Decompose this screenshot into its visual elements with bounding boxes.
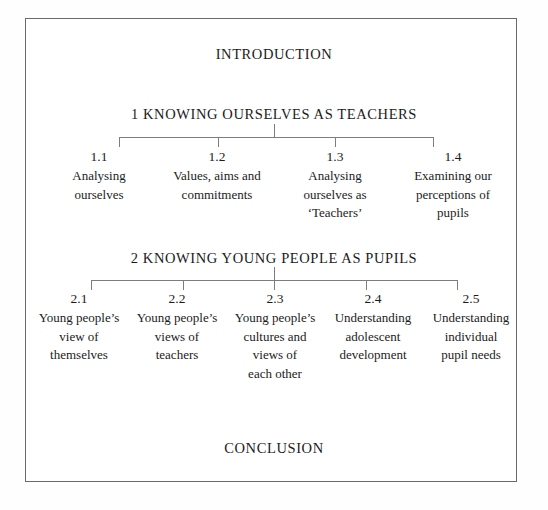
node-2-2-label: Young people’s views of teachers bbox=[131, 309, 223, 365]
section-1-heading: 1 KNOWING OURSELVES AS TEACHERS bbox=[0, 106, 548, 123]
node-1-1-number: 1.1 bbox=[43, 148, 155, 165]
node-2-1-number: 2.1 bbox=[33, 290, 125, 307]
conclusion-heading: CONCLUSION bbox=[0, 440, 548, 457]
node-1-2-number: 1.2 bbox=[161, 148, 273, 165]
diagram-page: INTRODUCTION 1 KNOWING OURSELVES AS TEAC… bbox=[0, 0, 548, 510]
node-2-3-label: Young people’s cultures and views of eac… bbox=[229, 309, 321, 383]
node-1-3-number: 1.3 bbox=[279, 148, 391, 165]
section-2-children: 2.1 Young people’s view of themselves 2.… bbox=[30, 290, 520, 383]
node-2-5-number: 2.5 bbox=[425, 290, 517, 307]
node-2-1: 2.1 Young people’s view of themselves bbox=[30, 290, 128, 365]
node-2-4: 2.4 Understanding adolescent development bbox=[324, 290, 422, 365]
node-1-3-label: Analysing ourselves as ‘Teachers’ bbox=[279, 167, 391, 223]
node-2-2: 2.2 Young people’s views of teachers bbox=[128, 290, 226, 365]
node-2-4-number: 2.4 bbox=[327, 290, 419, 307]
introduction-heading: INTRODUCTION bbox=[0, 46, 548, 63]
node-1-3: 1.3 Analysing ourselves as ‘Teachers’ bbox=[276, 148, 394, 223]
node-1-2: 1.2 Values, aims and commitments bbox=[158, 148, 276, 204]
node-2-1-label: Young people’s view of themselves bbox=[33, 309, 125, 365]
node-1-2-label: Values, aims and commitments bbox=[161, 167, 273, 204]
section-1-children: 1.1 Analysing ourselves 1.2 Values, aims… bbox=[40, 148, 512, 223]
node-2-5-label: Understanding individual pupil needs bbox=[425, 309, 517, 365]
node-1-4-label: Examining our perceptions of pupils bbox=[397, 167, 509, 223]
node-2-4-label: Understanding adolescent development bbox=[327, 309, 419, 365]
node-1-1-label: Analysing ourselves bbox=[43, 167, 155, 204]
node-2-2-number: 2.2 bbox=[131, 290, 223, 307]
node-1-1: 1.1 Analysing ourselves bbox=[40, 148, 158, 204]
node-2-5: 2.5 Understanding individual pupil needs bbox=[422, 290, 520, 365]
section-2-heading: 2 KNOWING YOUNG PEOPLE AS PUPILS bbox=[0, 250, 548, 267]
node-2-3-number: 2.3 bbox=[229, 290, 321, 307]
node-2-3: 2.3 Young people’s cultures and views of… bbox=[226, 290, 324, 383]
node-1-4-number: 1.4 bbox=[397, 148, 509, 165]
node-1-4: 1.4 Examining our perceptions of pupils bbox=[394, 148, 512, 223]
